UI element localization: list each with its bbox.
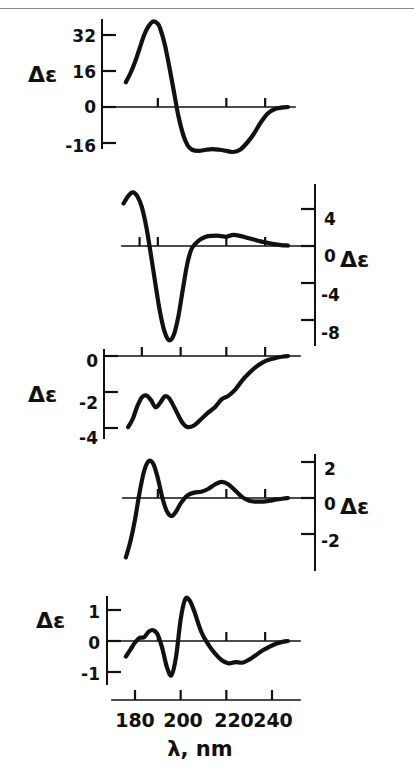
x-tick-label-240: 240 [249,709,297,731]
panel-1-ytick-label-1: 16 [54,62,96,82]
spectrum-5-curve [126,598,288,676]
wavelength-axis [112,690,300,700]
panel-1-axes [102,20,295,148]
panel-2-ytick-label-2: -4 [321,285,340,305]
panel-3-ytick-label-0: 0 [62,351,98,371]
spectrum-3-curve [128,356,288,427]
x-axis-title: λ, nm [140,737,260,761]
x-tick-label-200: 200 [159,709,207,731]
spectrum-2-curve [124,192,288,340]
panel-1-ytick-label-0: 32 [54,26,96,46]
panel-4-ytick-label-2: -2 [321,531,340,551]
spectrum-4-curve [126,461,288,558]
panel-5-ytick-label-2: -1 [66,664,100,684]
panel-1-ytick-label-3: -16 [50,136,96,156]
panel-2-axis-title: Δε [340,247,369,272]
panel-5-axis-title: Δε [36,608,65,633]
cd-spectra-figure: Δε 32 16 0 -16 Δε 4 0 -4 -8 Δε 0 -2 -4 Δ… [0,0,414,774]
panel-2-ytick-label-0: 4 [324,209,336,229]
panel-4-axis-title: Δε [340,494,369,519]
panel-4-axes [123,455,315,570]
panel-1-axis-title: Δε [28,62,57,87]
x-tick-label-180: 180 [111,709,159,731]
panel-2-ytick-label-1: 0 [324,246,336,266]
panel-3-axis-title: Δε [28,382,57,407]
panel-2-ytick-label-3: -8 [321,323,340,343]
panel-5-ytick-label-0: 1 [70,602,100,622]
panel-1-ytick-label-2: 0 [54,97,96,117]
panel-4-ytick-label-0: 2 [324,459,336,479]
spectrum-1-curve [126,21,288,152]
panel-5-ytick-label-1: 0 [70,633,100,653]
panel-3-ytick-label-1: -2 [58,393,98,413]
panel-3-ytick-label-2: -4 [58,428,98,448]
panel-4-ytick-label-1: 0 [324,494,336,514]
